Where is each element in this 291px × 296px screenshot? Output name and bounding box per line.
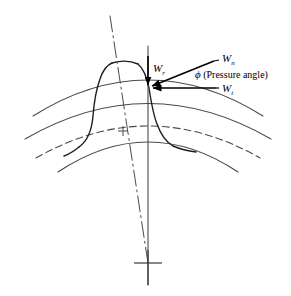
figure-background [0, 0, 291, 296]
normal-force-subscript: n [231, 59, 235, 67]
pressure-angle-text: (Pressure angle) [201, 69, 268, 81]
gear-force-diagram: Wn Wr Wt ϕ (Pressure angle) [0, 0, 291, 296]
gear-force-figure: Wn Wr Wt ϕ (Pressure angle) [0, 0, 291, 296]
radial-force-subscript: r [162, 69, 165, 77]
pressure-angle-label: ϕ (Pressure angle) [195, 68, 268, 81]
